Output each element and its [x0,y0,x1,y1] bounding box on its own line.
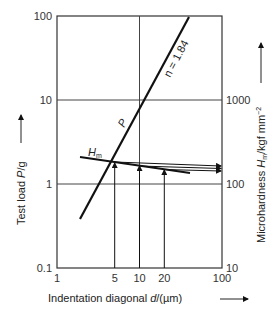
x-tick-100: 100 [213,272,231,284]
svg-text:Test load P/g: Test load P/g [15,161,27,225]
y2-tick-labels: 1000 100 10 [226,94,250,274]
y2-axis-label: Microhardness Hm/kgf mm−2 [255,43,268,243]
y2-tick-1000: 1000 [226,94,250,106]
p-label: P [115,116,129,129]
y-tick-100: 100 [34,10,52,22]
x-tick-1: 1 [54,272,60,284]
vertical-arrows [115,163,165,268]
x-tick-labels: 1 5 10 20 100 [54,272,231,284]
hm-line [80,157,190,173]
x-tick-20: 20 [158,272,170,284]
log-log-chart: 100 10 1 0.1 1000 100 10 1 5 10 20 100 P… [0,0,278,316]
p-line [80,17,189,219]
y-tick-1: 1 [46,178,52,190]
y2-tick-100: 100 [226,178,244,190]
svg-text:Indentation diagonal d/(µm): Indentation diagonal d/(µm) [48,292,182,304]
svg-text:Microhardness Hm/kgf mm−2: Microhardness Hm/kgf mm−2 [255,107,268,243]
x-tick-5: 5 [112,272,118,284]
y-tick-0.1: 0.1 [37,262,52,274]
hm-label: Hm [88,146,102,159]
y-axis-label: Test load P/g [15,115,27,225]
x-tick-10: 10 [133,272,145,284]
horizontal-arrows [115,162,221,171]
x-axis-label: Indentation diagonal d/(µm) [48,292,248,304]
y-tick-labels: 100 10 1 0.1 [34,10,52,274]
y-tick-10: 10 [40,94,52,106]
